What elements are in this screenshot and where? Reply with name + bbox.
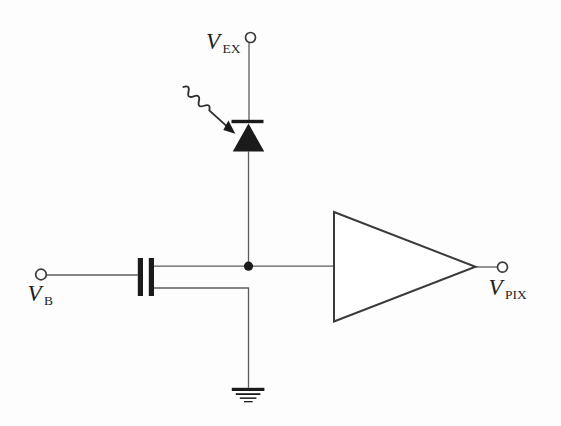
- ground-bar-3: [240, 397, 257, 399]
- capacitor-right-plate-icon: [149, 258, 154, 296]
- photodiode-cathode-bar-icon: [232, 120, 264, 123]
- vpix-label-subscript: PIX: [505, 287, 527, 302]
- sense-node-dot-icon: [244, 262, 253, 271]
- vb-label-subscript: B: [44, 293, 53, 308]
- capacitor-left-plate-icon: [138, 258, 143, 296]
- ground-bar-2: [236, 393, 261, 395]
- ground-bar-1: [232, 388, 265, 391]
- circuit-diagram: V EX V B V PIX: [0, 0, 561, 426]
- vpix-terminal-icon: [498, 262, 508, 272]
- ground-bar-4: [244, 401, 253, 402]
- vex-label-subscript: EX: [223, 41, 241, 56]
- vex-terminal-icon: [246, 33, 256, 43]
- figure-background: [0, 0, 561, 426]
- vb-terminal-icon: [36, 269, 47, 280]
